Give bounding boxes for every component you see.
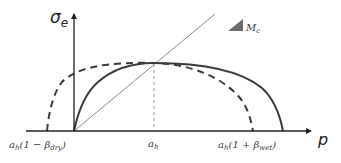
slope-triangle-icon [228, 19, 243, 31]
dashed-yield-curve [47, 63, 253, 131]
y-axis-label: σe [50, 7, 68, 30]
x-axis-label: p [317, 130, 328, 149]
slope-label: Mc [245, 22, 260, 35]
wet-limit-label: ah(1 + βwet) [218, 139, 276, 152]
yield-surface-diagram: σe p Mc ah(1 − βdry) ah ah(1 + βwet) [0, 0, 341, 163]
critical-state-line [74, 14, 215, 131]
dry-limit-label: ah(1 − βdry) [9, 139, 66, 152]
ah-label: ah [148, 138, 158, 151]
